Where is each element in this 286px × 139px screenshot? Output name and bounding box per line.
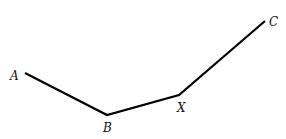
polyline-diagram: A B X C (0, 0, 286, 139)
path-a-b-x-c (25, 21, 265, 115)
label-point-c: C (269, 15, 278, 29)
label-point-a: A (9, 69, 19, 83)
label-point-b: B (102, 121, 112, 135)
label-point-x: X (176, 101, 186, 115)
